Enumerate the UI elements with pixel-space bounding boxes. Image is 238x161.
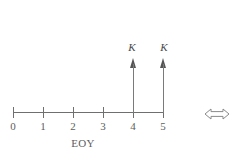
axis-tick-0 bbox=[13, 107, 14, 118]
axis-tick-label-0: 0 bbox=[3, 120, 23, 133]
axis-tick-2 bbox=[73, 107, 74, 118]
left-right-double-arrow-icon bbox=[204, 104, 230, 124]
cash-flow-label-period-5: K bbox=[152, 41, 176, 54]
axis-tick-label-1: 1 bbox=[33, 120, 53, 133]
axis-tick-1 bbox=[43, 107, 44, 118]
axis-tick-3 bbox=[103, 107, 104, 118]
axis-caption-eoy: EOY bbox=[58, 137, 108, 150]
cash-flow-diagram: 0 1 2 3 4 5 EOY K K bbox=[0, 0, 238, 161]
cash-flow-label-period-4: K bbox=[120, 41, 144, 54]
axis-tick-label-4: 4 bbox=[123, 120, 143, 133]
axis-tick-label-3: 3 bbox=[93, 120, 113, 133]
axis-tick-label-2: 2 bbox=[63, 120, 83, 133]
timeline-axis-line bbox=[13, 112, 164, 113]
cash-flow-arrow-period-5 bbox=[159, 58, 168, 113]
arrow-shaft bbox=[133, 64, 134, 113]
cash-flow-arrow-period-4 bbox=[129, 58, 138, 113]
axis-tick-label-5: 5 bbox=[153, 120, 173, 133]
arrow-shaft bbox=[163, 64, 164, 113]
